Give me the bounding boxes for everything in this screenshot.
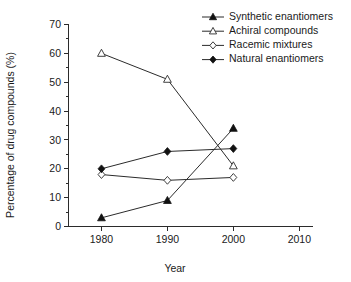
y-tick-label: 30 <box>49 134 61 146</box>
line-chart: 010203040506070 1980199020002010 Percent… <box>0 0 351 282</box>
chart-figure: 010203040506070 1980199020002010 Percent… <box>0 0 351 282</box>
data-series-group <box>98 49 238 221</box>
y-axis-title: Percentage of drug compounds (%) <box>4 52 16 218</box>
legend-item: Synthetic enantiomers <box>202 10 333 22</box>
marker-filled-diamond <box>98 165 105 173</box>
series-2 <box>98 171 237 185</box>
marker-filled-diamond <box>210 56 216 63</box>
y-tick-label: 20 <box>49 162 61 174</box>
y-tick-label: 70 <box>49 18 61 30</box>
y-axis: 010203040506070 <box>49 18 68 232</box>
marker-open-diamond <box>230 174 237 182</box>
series-line <box>101 128 233 217</box>
marker-open-diamond <box>164 176 171 184</box>
y-tick-label: 60 <box>49 47 61 59</box>
x-tick-label: 1980 <box>90 233 114 245</box>
marker-open-triangle <box>98 49 106 56</box>
legend-item: Achiral compounds <box>202 24 318 36</box>
legend-label: Achiral compounds <box>229 24 318 36</box>
marker-filled-triangle <box>209 13 216 19</box>
x-tick-label: 2010 <box>288 233 312 245</box>
marker-filled-triangle <box>229 124 237 131</box>
x-axis: 1980199020002010 <box>69 227 313 245</box>
legend-label: Racemic mixtures <box>229 38 312 50</box>
marker-filled-diamond <box>164 148 171 156</box>
y-tick-label: 10 <box>49 191 61 203</box>
series-0 <box>98 124 238 221</box>
legend-item: Racemic mixtures <box>202 38 312 50</box>
marker-open-triangle <box>209 27 216 33</box>
x-tick-label: 2000 <box>222 233 246 245</box>
legend-label: Synthetic enantiomers <box>229 10 333 22</box>
x-axis-title: Year <box>164 262 186 274</box>
y-tick-label: 40 <box>49 105 61 117</box>
marker-open-diamond <box>210 42 216 49</box>
series-3 <box>98 145 237 173</box>
y-tick-label: 0 <box>55 220 61 232</box>
legend-label: Natural enantiomers <box>229 52 324 64</box>
marker-filled-diamond <box>230 145 237 153</box>
chart-legend: Synthetic enantiomersAchiral compoundsRa… <box>202 10 333 65</box>
y-tick-label: 50 <box>49 76 61 88</box>
legend-item: Natural enantiomers <box>202 52 324 64</box>
x-tick-label: 1990 <box>156 233 180 245</box>
